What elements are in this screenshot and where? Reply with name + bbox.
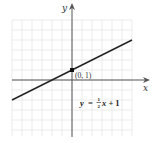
graph: x y (0, 1) y = 1 2 x + 1 — [0, 0, 154, 143]
equation-label: y = 1 2 x + 1 — [79, 97, 120, 109]
eq-fraction-denominator: 2 — [98, 104, 101, 109]
y-intercept-point — [70, 68, 74, 72]
point-label: (0, 1) — [75, 71, 92, 80]
y-axis-label: y — [61, 3, 68, 13]
eq-rest: x + 1 — [101, 98, 120, 108]
eq-y: y — [79, 98, 84, 108]
svg-text:y =: y = — [79, 98, 93, 108]
eq-fraction-numerator: 1 — [98, 97, 101, 102]
eq-equals: = — [88, 98, 93, 108]
x-axis-label: x — [143, 83, 148, 93]
